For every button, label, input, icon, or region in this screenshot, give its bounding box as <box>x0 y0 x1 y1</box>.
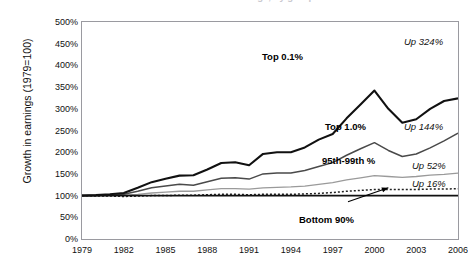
x-tick-1988: 1988 <box>197 245 217 255</box>
line-top-1-percent <box>82 133 458 196</box>
label-95th-99th: 95th-99th % <box>322 155 375 166</box>
x-tick-1982: 1982 <box>114 245 134 255</box>
label-top-0-1-percent: Top 0.1% <box>262 51 303 62</box>
x-tick-2000: 2000 <box>364 245 384 255</box>
label-bottom-90-percent: Bottom 90% <box>299 214 354 225</box>
annotation-up-144: Up 144% <box>404 121 443 132</box>
x-tick-2003: 2003 <box>406 245 426 255</box>
x-tick-1994: 1994 <box>281 245 301 255</box>
annotation-up-324: Up 324% <box>404 36 443 47</box>
chart-figure: Growth in earnings, by group Growth in e… <box>0 0 468 268</box>
line-top-0-1-percent <box>82 91 458 196</box>
label-top-1-percent: Top 1.0% <box>325 121 366 132</box>
x-tick-1979: 1979 <box>72 245 92 255</box>
x-tick-2006: 2006 <box>448 245 468 255</box>
annotation-up-16: Up 16% <box>412 178 446 189</box>
x-tick-1997: 1997 <box>323 245 343 255</box>
x-tick-1985: 1985 <box>156 245 176 255</box>
x-tick-1991: 1991 <box>239 245 259 255</box>
line-95th-99th <box>82 173 458 196</box>
annotation-up-52: Up 52% <box>412 160 446 171</box>
